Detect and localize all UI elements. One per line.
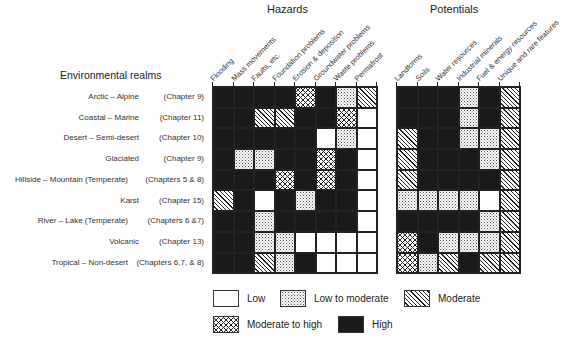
legend-swatch-low [213,290,239,307]
hazard-cell [316,87,337,108]
legend-item-moderate: Moderate [404,290,480,307]
potential-cell [459,128,480,149]
hazard-cell [213,149,234,170]
hazard-cell [316,232,337,253]
realm-chapter: (Chapter 15) [159,196,204,205]
potential-cell [500,170,521,191]
hazard-cell [336,232,357,253]
potential-cell [418,108,439,129]
hazard-cell [316,170,337,191]
realm-chapter: (Chapter 11) [160,113,204,122]
legend-swatch-low-to-moderate [280,290,306,307]
hazard-cell [213,190,234,211]
potential-cell [438,149,459,170]
potential-cell [438,170,459,191]
potential-cell [479,128,500,149]
legend-swatch-high [338,316,364,333]
hazard-cell [295,232,316,253]
hazard-cell [234,108,255,129]
realm-name-desert-semi-desert: Desert – Semi-desert [0,133,139,142]
hazard-cell [213,108,234,129]
hazard-cell [316,190,337,211]
potential-cell [397,170,418,191]
realm-chapter: (Chapter 9) [164,154,204,163]
potential-cell [397,190,418,211]
legend-label: Moderate to high [247,319,322,330]
potential-cell [418,87,439,108]
potential-cell [500,232,521,253]
realm-chapter: (Chapters 6 &7) [148,216,204,225]
hazard-cell [357,170,378,191]
potential-cell [418,211,439,232]
hazard-cell [275,149,296,170]
potential-column-soils: Soils [413,65,431,83]
hazard-cell [357,211,378,232]
potential-cell [459,211,480,232]
hazard-cell [254,211,275,232]
hazard-cell [275,87,296,108]
hazard-cell [275,211,296,232]
legend-label: High [372,319,393,330]
potential-cell [459,108,480,129]
hazard-cell [234,232,255,253]
potential-cell [479,232,500,253]
realm-name-karst: Karst [0,196,139,205]
hazard-cell [234,190,255,211]
potential-cell [500,253,521,274]
realm-name-coastal-marine: Coastal – Marine [0,113,139,122]
potential-cell [479,190,500,211]
hazard-cell [234,253,255,274]
hazard-cell [336,190,357,211]
potential-cell [459,170,480,191]
potential-cell [438,87,459,108]
legend-item-high: High [338,316,393,333]
realm-name-river-lake-temperate: River – Lake (Temperate) [0,216,128,225]
potentials-grid [396,86,521,274]
hazard-cell [254,128,275,149]
hazard-cell [316,253,337,274]
hazard-cell [213,128,234,149]
hazard-cell [295,87,316,108]
potential-cell [438,190,459,211]
hazard-cell [357,149,378,170]
hazard-cell [254,87,275,108]
legend-label: Low to moderate [314,293,389,304]
potential-cell [500,128,521,149]
hazard-cell [295,128,316,149]
potential-cell [479,87,500,108]
potential-cell [418,128,439,149]
potential-cell [500,211,521,232]
potential-cell [500,87,521,108]
hazard-cell [295,211,316,232]
realm-name-arctic-alpine: Arctic – Alpine [0,92,139,101]
hazard-cell [295,149,316,170]
potential-cell [500,149,521,170]
hazard-cell [336,149,357,170]
hazard-cell [275,128,296,149]
hazard-cell [213,253,234,274]
potential-cell [459,190,480,211]
potential-cell [459,149,480,170]
potential-cell [397,128,418,149]
potential-cell [397,232,418,253]
potential-cell [500,108,521,129]
hazard-cell [275,232,296,253]
realm-name-tropical-non-desert: Tropical – Non-desert [0,258,128,267]
hazard-cell [295,108,316,129]
hazard-cell [357,190,378,211]
potential-cell [479,149,500,170]
hazard-cell [275,170,296,191]
legend-label: Low [247,293,265,304]
potential-cell [418,253,439,274]
legend-swatch-moderate-to-high [213,316,239,333]
hazard-cell [357,232,378,253]
hazard-cell [254,108,275,129]
hazard-cell [234,87,255,108]
hazards-title: Hazards [267,3,308,15]
potential-cell [438,253,459,274]
legend-swatch-moderate [404,290,430,307]
potential-cell [459,87,480,108]
legend-item-moderate-to-high: Moderate to high [213,316,322,333]
potential-cell [418,170,439,191]
hazard-cell [316,211,337,232]
